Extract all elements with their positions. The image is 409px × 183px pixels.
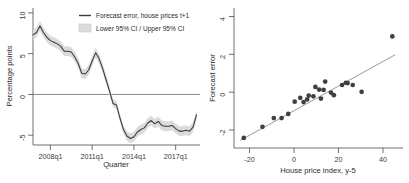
scatter-x-axis-title: House price index, y-5 bbox=[280, 166, 356, 175]
x-tick-group: 2008q12011q12014q12017q1 bbox=[38, 145, 187, 161]
scatter-point bbox=[279, 116, 284, 121]
y-tick-group: 1050-5 bbox=[18, 11, 33, 141]
scatter-point bbox=[241, 136, 246, 141]
scatter-point-group bbox=[241, 34, 394, 140]
scatter-point bbox=[331, 93, 336, 98]
legend-label-forecast-error: Forecast error, house prices t+1 bbox=[96, 12, 190, 20]
y-tick-label: -5 bbox=[18, 135, 27, 141]
x-tick-label: 40 bbox=[379, 155, 387, 164]
y-tick-label: 10 bbox=[18, 11, 27, 19]
scatter-point bbox=[306, 93, 311, 98]
scatter-point bbox=[298, 96, 303, 101]
forecast-error-timeseries-panel: 1050-5 2008q12011q12014q12017q1 Quarter … bbox=[0, 0, 205, 183]
forecast-error-scatter-panel: 420-2 -2002040 House price index, y-5 Fo… bbox=[205, 0, 409, 183]
x-tick-label: 2008q1 bbox=[38, 152, 62, 161]
scatter-chart-svg: 420-2 -2002040 House price index, y-5 Fo… bbox=[205, 0, 409, 183]
timeseries-x-axis-title: Quarter bbox=[103, 160, 129, 169]
two-panel-figure: 1050-5 2008q12011q12014q12017q1 Quarter … bbox=[0, 0, 409, 183]
legend-band-swatch-icon bbox=[79, 24, 91, 32]
x-tick-label: 2011q1 bbox=[80, 152, 103, 161]
scatter-point bbox=[319, 96, 324, 101]
scatter-point bbox=[313, 85, 318, 90]
scatter-point bbox=[350, 83, 355, 88]
scatter-point bbox=[311, 94, 316, 99]
scatter-point bbox=[286, 112, 291, 117]
scatter-point bbox=[390, 34, 395, 39]
timeseries-chart-svg: 1050-5 2008q12011q12014q12017q1 Quarter … bbox=[0, 0, 205, 183]
y-tick-label: 5 bbox=[18, 54, 27, 58]
y-tick-label: -2 bbox=[218, 129, 227, 135]
timeseries-y-axis-title: Percentage points bbox=[5, 45, 14, 106]
x-tick-label: 0 bbox=[292, 155, 296, 164]
timeseries-legend: Forecast error, house prices t+1 Lower 9… bbox=[79, 12, 190, 33]
scatter-y-axis-title: Forecast error bbox=[208, 54, 217, 102]
scatter-point bbox=[292, 99, 297, 104]
scatter-point bbox=[271, 116, 276, 121]
scatter-axes bbox=[234, 8, 403, 148]
y-tick-label: 0 bbox=[18, 95, 27, 99]
scatter-point bbox=[321, 88, 326, 93]
scatter-point bbox=[323, 79, 328, 84]
scatter-point bbox=[345, 81, 350, 86]
y-tick-label: 0 bbox=[218, 93, 227, 97]
legend-label-confidence-interval: Lower 95% CI / Upper 95% CI bbox=[96, 25, 184, 33]
scatter-point bbox=[317, 87, 322, 92]
scatter-point bbox=[359, 89, 364, 94]
scatter-point bbox=[260, 124, 265, 129]
x-tick-label: 2017q1 bbox=[164, 152, 188, 161]
y-tick-label: 4 bbox=[218, 17, 227, 21]
y-tick-group: 420-2 bbox=[218, 17, 234, 136]
x-tick-label: 20 bbox=[335, 155, 343, 164]
y-tick-label: 2 bbox=[218, 55, 227, 59]
x-tick-label: -20 bbox=[244, 155, 254, 164]
x-tick-group: -2002040 bbox=[244, 148, 387, 164]
